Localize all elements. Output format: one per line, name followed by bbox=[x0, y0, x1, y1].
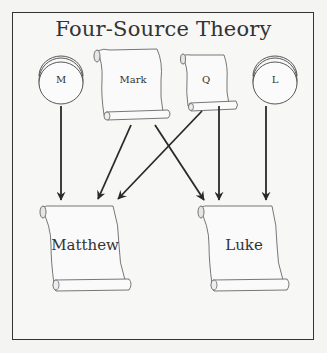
source-l-label: L bbox=[255, 74, 295, 85]
arrow-mark-to-matthew bbox=[98, 125, 131, 199]
target-luke-label: Luke bbox=[210, 236, 278, 254]
arrow-mark-to-luke bbox=[155, 125, 204, 200]
diagram-canvas bbox=[0, 0, 327, 353]
arrow-q-to-matthew bbox=[118, 111, 202, 199]
source-m-label: M bbox=[41, 74, 81, 85]
source-mark-label: Mark bbox=[108, 74, 158, 85]
source-q-label: Q bbox=[188, 74, 224, 85]
target-matthew-label: Matthew bbox=[50, 236, 120, 254]
